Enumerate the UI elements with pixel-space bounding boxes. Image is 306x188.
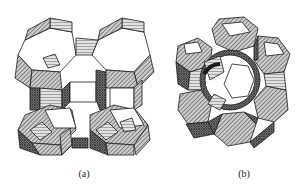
panel-a-structure [10, 10, 156, 158]
sodalite-framework-a-graphic [10, 10, 156, 158]
panel-b-caption: (b) [238, 168, 250, 179]
panel-b-structure [174, 14, 294, 152]
panel-a-caption: (a) [78, 168, 89, 179]
sodalite-ring-b-graphic [174, 14, 294, 152]
